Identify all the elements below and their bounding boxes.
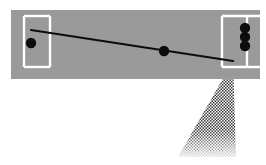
diagram-root <box>0 0 266 165</box>
right-player-marker-top <box>240 23 250 33</box>
ball-marker-midfield <box>159 46 169 56</box>
left-player-marker <box>26 38 36 48</box>
right-player-marker-bottom <box>240 41 250 51</box>
right-player-marker-middle <box>240 32 250 42</box>
pitch-trajectory-diagram <box>0 0 266 165</box>
